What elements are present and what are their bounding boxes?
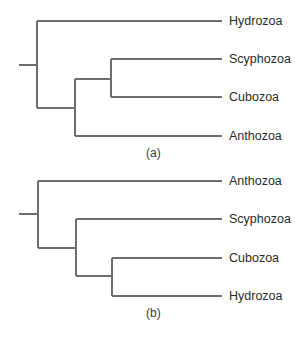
taxon-label: Hydrozoa bbox=[229, 289, 283, 303]
taxon-label: Scyphozoa bbox=[229, 52, 291, 66]
taxon-label: Cubozoa bbox=[229, 251, 279, 265]
tree-caption: (a) bbox=[146, 146, 161, 160]
taxon-label: Cubozoa bbox=[229, 90, 279, 104]
tree-caption: (b) bbox=[146, 306, 161, 320]
taxon-label: Scyphozoa bbox=[229, 212, 291, 226]
taxon-label: Anthozoa bbox=[229, 174, 282, 188]
tree-b: Anthozoa Scyphozoa Cubozoa Hydrozoa (b) bbox=[19, 174, 291, 320]
taxon-label: Anthozoa bbox=[229, 129, 282, 143]
tree-a: Hydrozoa Scyphozoa Cubozoa Anthozoa (a) bbox=[19, 14, 291, 160]
taxon-label: Hydrozoa bbox=[229, 14, 283, 28]
phylogenetic-trees: Hydrozoa Scyphozoa Cubozoa Anthozoa (a) … bbox=[0, 0, 297, 337]
